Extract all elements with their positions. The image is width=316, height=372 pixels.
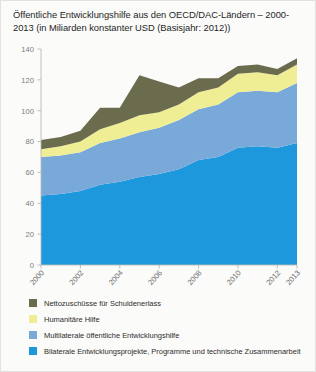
legend-swatch-icon [29, 299, 37, 307]
x-tick-label: 2008 [186, 268, 204, 287]
chart-legend: Nettozuschüsse für SchuldenerlassHumanit… [29, 295, 311, 359]
legend-item[interactable]: Nettozuschüsse für Schuldenerlass [29, 295, 311, 311]
x-tick-label: 2006 [146, 268, 164, 287]
stacked-area-chart: 020406080100120140 200020022004200620082… [1, 1, 316, 291]
legend-item[interactable]: Bilaterale Entwicklungsprojekte, Program… [29, 343, 311, 359]
legend-item-label: Bilaterale Entwicklungsprojekte, Program… [44, 347, 301, 356]
y-tick-label: 0 [30, 261, 34, 270]
chart-plot-area: 020406080100120140 200020022004200620082… [1, 1, 316, 291]
x-tick-label: 2012 [264, 268, 282, 287]
y-tick-label: 40 [26, 199, 34, 208]
legend-item-label: Humanitäre Hilfe [44, 315, 100, 324]
legend-item-label: Nettozuschüsse für Schuldenerlass [44, 299, 161, 308]
legend-item[interactable]: Humanitäre Hilfe [29, 311, 311, 327]
chart-page: Öffentliche Entwicklungshilfe aus den OE… [0, 0, 316, 372]
legend-item[interactable]: Multilaterale öffentliche Entwicklungshi… [29, 327, 311, 343]
y-tick-label: 80 [26, 137, 34, 146]
area-series-group [41, 58, 297, 265]
y-axis-ticks: 020406080100120140 [21, 45, 41, 270]
x-tick-label: 2013 [284, 268, 302, 287]
y-tick-label: 60 [26, 168, 34, 177]
y-tick-label: 20 [26, 230, 34, 239]
x-tick-label: 2010 [225, 268, 243, 287]
y-tick-label: 120 [21, 76, 34, 85]
y-tick-label: 140 [21, 45, 34, 54]
legend-swatch-icon [29, 315, 37, 323]
x-tick-label: 2000 [28, 268, 46, 287]
legend-swatch-icon [29, 331, 37, 339]
legend-swatch-icon [29, 347, 37, 355]
x-axis-ticks: 20002002200420062008201020122013(vorläuf… [28, 265, 306, 291]
legend-item-label: Multilaterale öffentliche Entwicklungshi… [44, 331, 179, 340]
x-tick-label: 2002 [67, 268, 85, 287]
x-tick-label: 2004 [107, 268, 125, 287]
y-tick-label: 100 [21, 107, 34, 116]
